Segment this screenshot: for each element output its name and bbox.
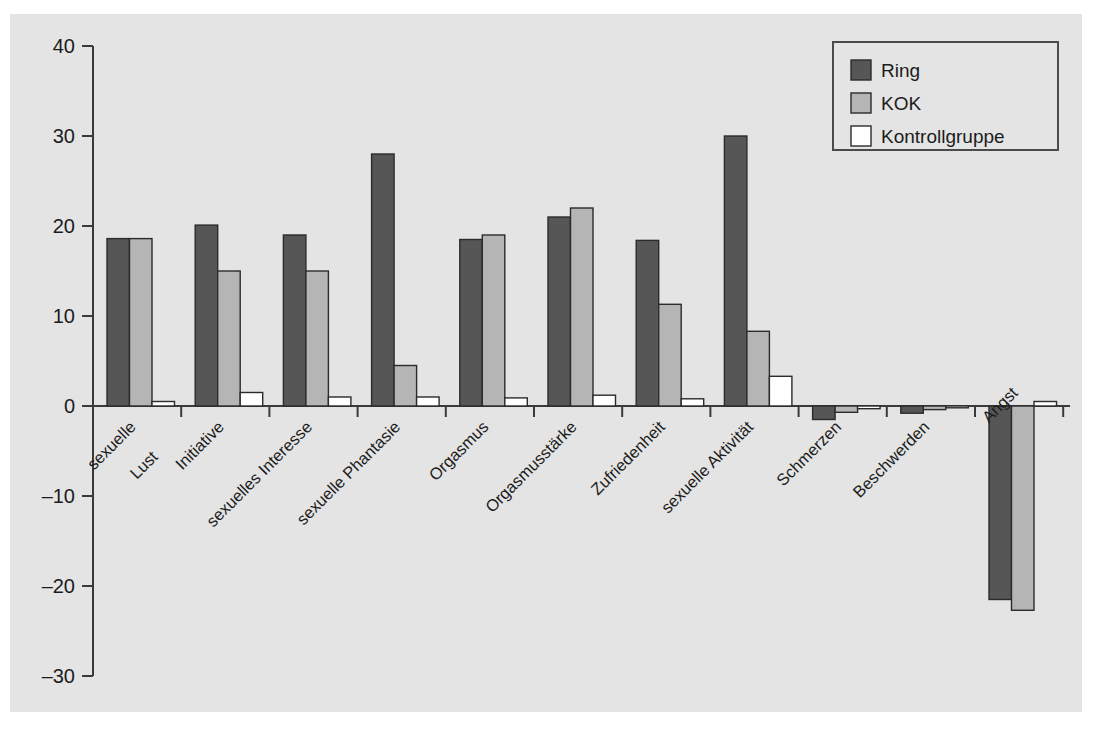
y-axis: 403020100–10–20–30 [42,35,93,687]
y-axis-tick-label: –20 [42,575,75,597]
legend-swatch[interactable] [851,126,871,146]
legend-label[interactable]: Kontrollgruppe [881,126,1005,147]
category-label: Zufriedenheit [587,417,668,498]
bar [747,331,770,406]
legend-label[interactable]: Ring [881,60,920,81]
y-axis-tick-label: –10 [42,485,75,507]
chart-legend[interactable]: RingKOKKontrollgruppe [833,42,1058,150]
svg-text:Zufriedenheit: Zufriedenheit [587,417,668,498]
chart-page: 403020100–10–20–30 sexuelleLustInitiativ… [0,0,1098,737]
bar [946,406,969,408]
bar [152,402,175,407]
bar [482,235,505,406]
bar [769,376,792,406]
category-label: Initiative [172,417,228,473]
category-label: Schmerzen [773,417,845,489]
category-label: sexuelle Aktivität [657,417,756,516]
bar [989,406,1012,600]
bar [328,397,351,406]
bar [372,154,395,406]
y-axis-tick-label: –30 [42,665,75,687]
legend-swatch[interactable] [851,60,871,80]
y-axis-tick-label: 30 [53,125,75,147]
svg-text:Beschwerden: Beschwerden [849,417,932,500]
bar [195,225,218,406]
bar [571,208,594,406]
bar [901,406,924,413]
bar [394,366,417,407]
bar-chart: 403020100–10–20–30 sexuelleLustInitiativ… [0,0,1098,737]
bar [240,393,263,407]
bar [505,398,528,406]
bar [460,240,483,407]
bar [306,271,329,406]
bars-layer [107,136,1057,610]
bar [659,304,682,406]
svg-text:Orgasmusstärke: Orgasmusstärke [482,417,580,515]
svg-text:sexuelle Aktivität: sexuelle Aktivität [657,417,756,516]
y-axis-tick-label: 40 [53,35,75,57]
bar [835,406,858,412]
y-axis-tick-label: 10 [53,305,75,327]
bar [593,395,616,406]
svg-text:Orgasmus: Orgasmus [425,417,492,484]
y-axis-tick-label: 20 [53,215,75,237]
y-axis-tick-label: 0 [64,395,75,417]
category-label: Orgasmus [425,417,492,484]
bar [548,217,571,406]
legend-label[interactable]: KOK [881,93,921,114]
category-label: Lust [126,447,161,482]
category-label: Orgasmusstärke [482,417,580,515]
legend-swatch[interactable] [851,93,871,113]
bar [1034,402,1057,407]
bar [417,397,440,406]
svg-text:Lust: Lust [126,447,161,482]
bar [283,235,306,406]
bar [636,240,659,406]
bar [107,239,130,406]
bar [923,406,946,410]
svg-text:Initiative: Initiative [172,417,228,473]
svg-text:Schmerzen: Schmerzen [773,417,845,489]
category-label: Beschwerden [849,417,932,500]
bar [858,406,881,409]
bar [1012,406,1035,610]
bar [724,136,747,406]
bar [681,399,704,406]
bar [218,271,241,406]
bar [130,239,153,406]
